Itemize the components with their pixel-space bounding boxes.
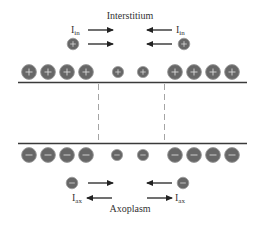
negative-ion-icon [41,148,56,163]
negative-ion-icon [111,149,122,160]
negative-ion-icon [22,148,37,163]
svg-text:Iax: Iax [72,192,82,205]
svg-text:Iin: Iin [71,24,80,37]
membrane-negative-charges [22,148,240,163]
positive-ion-icon [79,65,94,80]
positive-ion-icon [137,66,148,77]
current-in-right-label: Iin [176,24,185,37]
positive-ion-icon [22,65,37,80]
membrane-positive-charges [22,65,240,80]
negative-ion-icon [225,148,240,163]
negative-ion-icon [79,148,94,163]
negative-ion-icon [177,177,189,189]
negative-ion-icon [187,148,202,163]
positive-ion-icon [168,65,183,80]
negative-ion-icon [60,148,75,163]
axoplasm-label: Axoplasm [109,203,150,214]
positive-ion-icon [178,38,190,50]
positive-ion-icon [206,65,221,80]
svg-text:Iax: Iax [175,192,185,205]
positive-ion-icon [60,65,75,80]
positive-ion-icon [41,65,56,80]
positive-ion-icon [67,38,79,50]
current-ax-left-label: Iax [72,192,82,205]
negative-ion-icon [206,148,221,163]
interstitium-label: Interstitium [107,10,154,21]
positive-ion-icon [225,65,240,80]
positive-ion-icon [187,65,202,80]
action-potential-current-diagram: Interstitium Iin Iin [0,0,259,225]
negative-ion-icon [137,149,148,160]
negative-ion-icon [66,177,78,189]
current-in-left-label: Iin [71,24,80,37]
negative-ion-icon [168,148,183,163]
current-ax-right-label: Iax [175,192,185,205]
positive-ion-icon [112,66,123,77]
svg-text:Iin: Iin [176,24,185,37]
